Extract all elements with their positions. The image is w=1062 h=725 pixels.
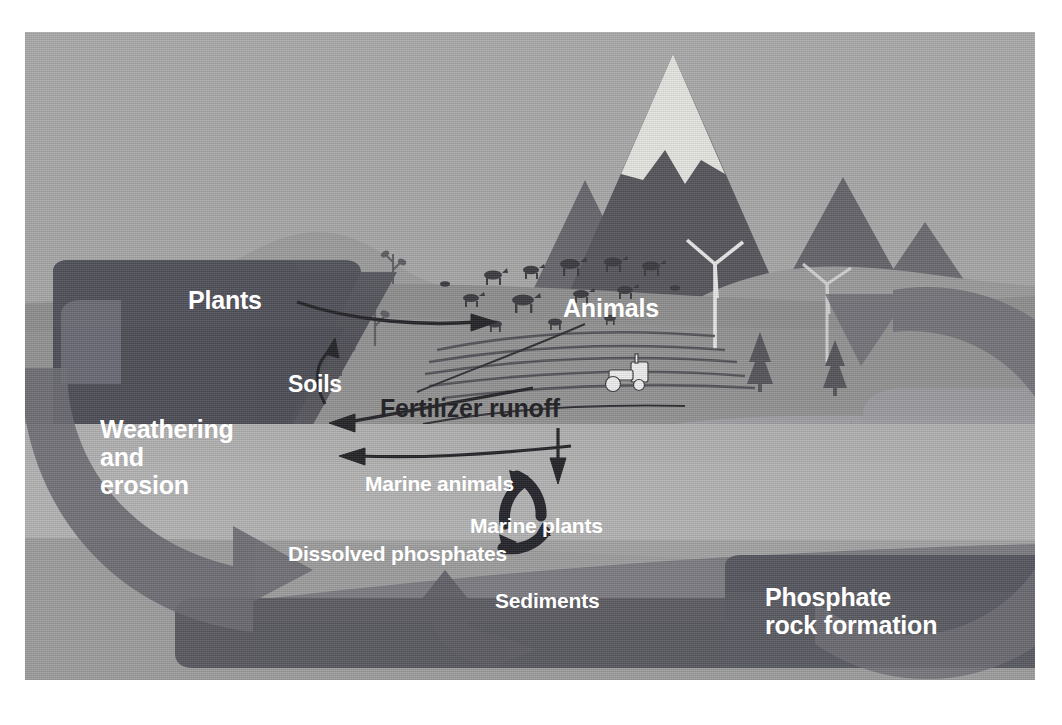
label-phosphate-rock-formation: Phosphate rock formation xyxy=(765,583,937,639)
label-marine-plants: Marine plants xyxy=(470,514,603,538)
animal xyxy=(440,281,450,287)
weathering-erosion-arrow-upper xyxy=(61,300,121,384)
diagram-canvas: Plants Animals Soils Fertilizer runoff W… xyxy=(0,0,1062,725)
label-sediments: Sediments xyxy=(495,589,599,613)
label-marine-animals: Marine animals xyxy=(365,472,514,496)
label-fertilizer-runoff: Fertilizer runoff xyxy=(380,394,560,422)
animal xyxy=(670,285,680,291)
phosphorus-cycle-figure: Plants Animals Soils Fertilizer runoff W… xyxy=(25,32,1035,680)
label-weathering-and-erosion: Weathering and erosion xyxy=(100,415,234,499)
label-animals: Animals xyxy=(563,294,659,322)
label-plants: Plants xyxy=(188,286,262,314)
label-dissolved-phosphates: Dissolved phosphates xyxy=(288,542,507,566)
label-soils: Soils xyxy=(288,372,342,398)
river-bend xyxy=(863,388,1035,430)
